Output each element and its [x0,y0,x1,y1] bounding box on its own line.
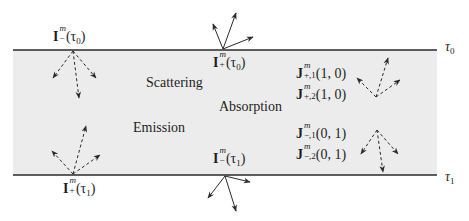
flux-minus-1: Jm−,1(0, 1) [296,127,346,141]
scattering-label: Scattering [146,76,203,90]
arrow-icon [223,37,253,49]
intensity-minus-tau0: Im−(τ0) [53,30,85,44]
absorption-label: Absorption [219,100,282,114]
arrow-icon [225,176,236,211]
emission-label: Emission [133,121,185,135]
top-center-outgoing-arrows [213,13,253,49]
arrow-icon [223,13,236,49]
tau1-label: τ1 [445,170,455,184]
intensity-plus-tau1: Im+(τ1) [63,182,95,196]
intensity-plus-tau0: Im+(τ0) [213,56,245,70]
bottom-center-outgoing-arrows [208,176,250,211]
arrow-icon [213,24,223,49]
tau0-label: τ0 [445,40,455,54]
flux-plus-1: Jm+,1(1, 0) [296,67,346,81]
arrow-icon [208,176,225,198]
flux-minus-2: Jm−,2(0, 1) [296,148,346,162]
intensity-minus-tau1: Im−(τ1) [213,152,245,166]
flux-plus-2: Jm+,2(1, 0) [296,88,346,102]
arrow-icon [225,176,250,182]
